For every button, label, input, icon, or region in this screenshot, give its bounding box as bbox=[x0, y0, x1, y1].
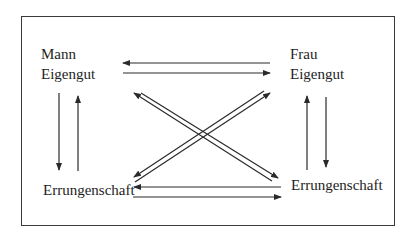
edges-layer bbox=[0, 0, 416, 242]
arrow-mann-eigengut-to-frau-errungenschaft bbox=[141, 93, 278, 178]
